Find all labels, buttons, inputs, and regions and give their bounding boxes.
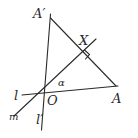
point-label-x: X: [79, 34, 88, 47]
point-label-a: A: [112, 92, 121, 105]
point-label-o: O: [47, 94, 58, 107]
point-label-a-prime: A′: [33, 7, 45, 20]
geometry-diagram: A′ X α l O A m l′: [0, 0, 138, 138]
line-l: [22, 86, 118, 95]
angle-label-alpha: α: [58, 78, 65, 88]
diagram-canvas: [0, 0, 138, 138]
segment-a-prime-a: [51, 18, 117, 86]
line-label-m: m: [9, 112, 18, 122]
line-label-l: l: [14, 89, 18, 102]
line-label-l-prime: l′: [36, 113, 43, 126]
